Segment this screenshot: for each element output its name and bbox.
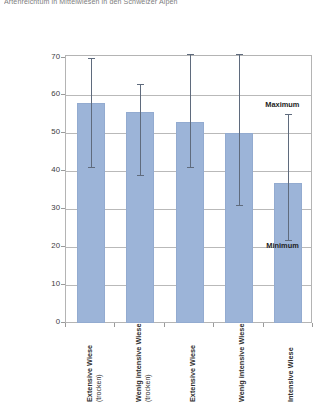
x-axis-tick-mark xyxy=(263,323,264,327)
y-axis-tick-label: 30 xyxy=(38,203,60,212)
chart-title: Artenreichtum in Mittelwiesen in den Sch… xyxy=(4,0,320,7)
x-axis-tick-mark xyxy=(164,323,165,327)
x-axis-category-label: Wenig intensive Wiese xyxy=(238,324,247,402)
annotation-maximum: Maximum xyxy=(265,100,299,109)
x-axis-tick-mark xyxy=(65,323,66,327)
y-axis-tick-label: 0 xyxy=(38,317,60,326)
error-bar-cap-lower xyxy=(88,167,95,168)
error-bar xyxy=(288,114,289,239)
error-bar-cap-upper xyxy=(285,114,292,115)
error-bar-cap-lower xyxy=(187,167,194,168)
chart-figure: Artenreichtum in Mittelwiesen in den Sch… xyxy=(0,0,324,414)
y-axis-tick-label: 60 xyxy=(38,89,60,98)
error-bar xyxy=(190,54,191,168)
y-axis-tick-label: 20 xyxy=(38,241,60,250)
x-axis-category-label: Intensive Wiese xyxy=(287,347,296,402)
x-axis-tick-mark xyxy=(213,323,214,327)
x-axis-category-label: Wenig intensive Wiese(trocken) xyxy=(135,324,152,402)
y-axis-tick-label: 10 xyxy=(38,279,60,288)
y-axis-tick-label: 50 xyxy=(38,127,60,136)
y-axis-tick-label: 40 xyxy=(38,165,60,174)
x-axis-tick-mark xyxy=(114,323,115,327)
annotation-minimum: Minimum xyxy=(266,241,298,250)
category-sub-label: (trocken) xyxy=(94,345,103,402)
plot-area xyxy=(65,55,312,323)
category-main-label: Wenig intensive Wiese xyxy=(237,324,246,402)
category-main-label: Intensive Wiese xyxy=(286,347,295,402)
y-axis-tick-label: 70 xyxy=(38,52,60,61)
error-bar-cap-lower xyxy=(236,205,243,206)
error-bar xyxy=(239,54,240,206)
error-bar-cap-upper xyxy=(137,84,144,85)
category-main-label: Extensive Wiese xyxy=(188,345,197,402)
error-bar-cap-upper xyxy=(187,54,194,55)
error-bar xyxy=(91,58,92,168)
x-axis-category-label: Extensive Wiese(trocken) xyxy=(86,345,103,402)
x-axis-category-label: Extensive Wiese xyxy=(189,345,198,402)
x-axis-tick-mark xyxy=(312,323,313,327)
category-main-label: Wenig intensive Wiese xyxy=(134,324,143,402)
error-bar-cap-lower xyxy=(137,175,144,176)
category-sub-label: (trocken) xyxy=(144,324,153,402)
category-main-label: Extensive Wiese xyxy=(85,345,94,402)
error-bar xyxy=(140,84,141,175)
error-bar-cap-upper xyxy=(236,54,243,55)
gridline xyxy=(66,95,311,96)
error-bar-cap-upper xyxy=(88,58,95,59)
